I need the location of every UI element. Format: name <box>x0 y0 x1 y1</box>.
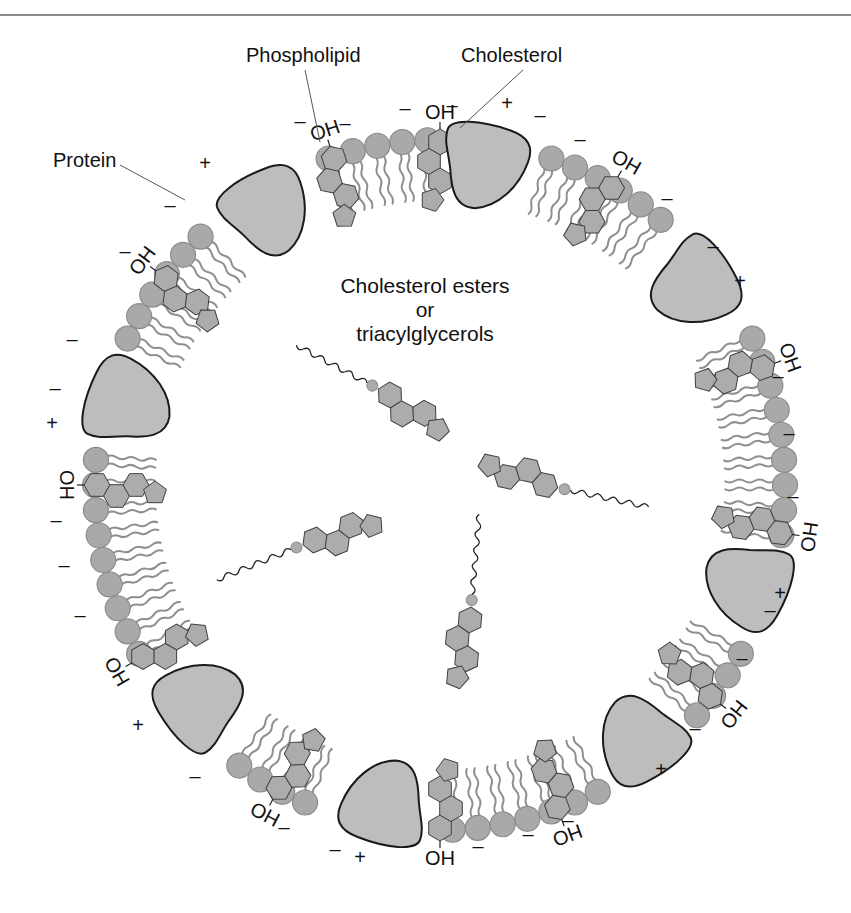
phospholipid-head <box>115 619 140 644</box>
hydroxyl-label: HO <box>796 521 822 554</box>
phospholipid-head <box>127 304 152 329</box>
phospholipid-head <box>585 779 610 804</box>
ester-link <box>466 594 478 606</box>
phospholipid-head <box>227 753 252 778</box>
phospholipid-tail <box>107 455 157 462</box>
phospholipid-tail <box>721 431 771 441</box>
hydroxyl-bond <box>775 361 782 363</box>
minus-charge: – <box>339 112 351 134</box>
cholesterol-molecules: OHOHOHOHOHHOHOHOHOHOHOHO <box>56 101 822 869</box>
phospholipid-head <box>188 224 213 249</box>
phospholipid-head <box>83 498 108 523</box>
protein-label: Protein <box>53 149 116 171</box>
protein-bottom <box>334 752 433 851</box>
core-label-line2: or <box>300 298 550 322</box>
plus-charge: + <box>354 846 366 868</box>
minus-charge: – <box>783 422 795 444</box>
phospholipid-label: Phospholipid <box>246 44 361 66</box>
minus-charge: – <box>574 128 586 150</box>
minus-charge: – <box>689 717 701 739</box>
protein-callout-line <box>120 165 185 200</box>
minus-charge: – <box>49 377 61 399</box>
core-molecules <box>212 335 653 690</box>
minus-charge: – <box>399 97 411 119</box>
protein-left <box>77 349 182 454</box>
minus-charge: – <box>736 647 748 669</box>
phospholipid-head <box>105 596 130 621</box>
fatty-acid-chain <box>295 343 368 385</box>
protein-top-left <box>211 153 329 271</box>
phospholipid-tail <box>120 569 169 586</box>
hydroxyl-label: HO <box>56 470 78 500</box>
minus-charge: – <box>329 838 341 860</box>
core-label-line1: Cholesterol esters <box>300 274 550 298</box>
plus-charge: + <box>199 152 211 174</box>
ester-link <box>365 378 380 393</box>
phospholipid-head <box>772 447 797 472</box>
phospholipid-tail <box>618 224 652 264</box>
minus-charge: – <box>534 104 546 126</box>
ring-d <box>691 367 720 395</box>
hydroxyl-bond <box>721 704 727 708</box>
phospholipid-tail <box>725 488 775 491</box>
phospholipid-tail <box>106 463 156 470</box>
minus-charge: – <box>278 816 290 838</box>
plus-charge: + <box>46 412 58 434</box>
minus-charge: – <box>661 187 673 209</box>
phospholipid-head <box>86 523 111 548</box>
phospholipid-tail <box>546 175 568 222</box>
phospholipid-tail <box>311 748 333 795</box>
core-label: Cholesterol esters or triacylglycerols <box>300 274 550 346</box>
phospholipid-tail <box>398 153 406 203</box>
phospholipid-head <box>97 572 122 597</box>
minus-charge: – <box>472 835 484 857</box>
minus-charge: – <box>294 110 306 132</box>
fatty-acid-chain <box>216 547 292 582</box>
fatty-acid-chain <box>570 488 649 510</box>
minus-charge: – <box>787 485 799 507</box>
phospholipid-tail <box>204 246 241 284</box>
fatty-acid-chain <box>470 514 482 594</box>
phospholipid-tail <box>723 455 773 462</box>
minus-charge: – <box>522 823 534 845</box>
phospholipid-tail <box>247 718 279 760</box>
phospholipid-tail <box>724 463 774 470</box>
hydroxyl-label: HO <box>425 847 455 869</box>
minus-charge: – <box>66 328 78 350</box>
hydroxyl-label: OH <box>608 145 645 179</box>
phospholipid-head <box>490 812 515 837</box>
hydroxyl-label: OH <box>307 115 342 145</box>
plus-charge: + <box>132 714 144 736</box>
phospholipid-tail <box>109 529 159 539</box>
ester-link <box>289 540 303 554</box>
hydroxyl-bond <box>126 663 132 667</box>
minus-charge: – <box>164 194 176 216</box>
phospholipid-tail <box>474 767 482 817</box>
minus-charge: – <box>50 509 62 531</box>
phospholipid-head <box>648 207 673 232</box>
minus-charge: – <box>58 554 70 576</box>
plus-charge: + <box>501 92 513 114</box>
phospholipid-tail <box>725 480 775 483</box>
minus-charge: – <box>707 235 719 257</box>
ester-top <box>286 335 457 447</box>
cholesterol-label: Cholesterol <box>461 44 562 66</box>
ester-right <box>475 449 654 518</box>
minus-charge: – <box>74 604 86 626</box>
phospholipid-head <box>764 397 789 422</box>
ring-d <box>332 202 360 230</box>
phospholipid-tail <box>494 764 506 814</box>
phospholipid-tail <box>374 157 386 207</box>
phospholipid-head <box>740 326 765 351</box>
minus-charge: – <box>189 765 201 787</box>
hydroxyl-bond <box>150 267 156 271</box>
plus-charge: + <box>774 582 786 604</box>
phospholipid-head <box>539 146 564 171</box>
hydroxyl-bond <box>270 799 273 805</box>
phospholipid-tail <box>107 508 157 515</box>
phospholipid-tail <box>466 768 474 818</box>
minus-charge: – <box>772 365 784 387</box>
minus-charge: – <box>119 240 131 262</box>
phospholipid-tail <box>527 167 546 215</box>
phospholipid-tail <box>358 160 374 209</box>
